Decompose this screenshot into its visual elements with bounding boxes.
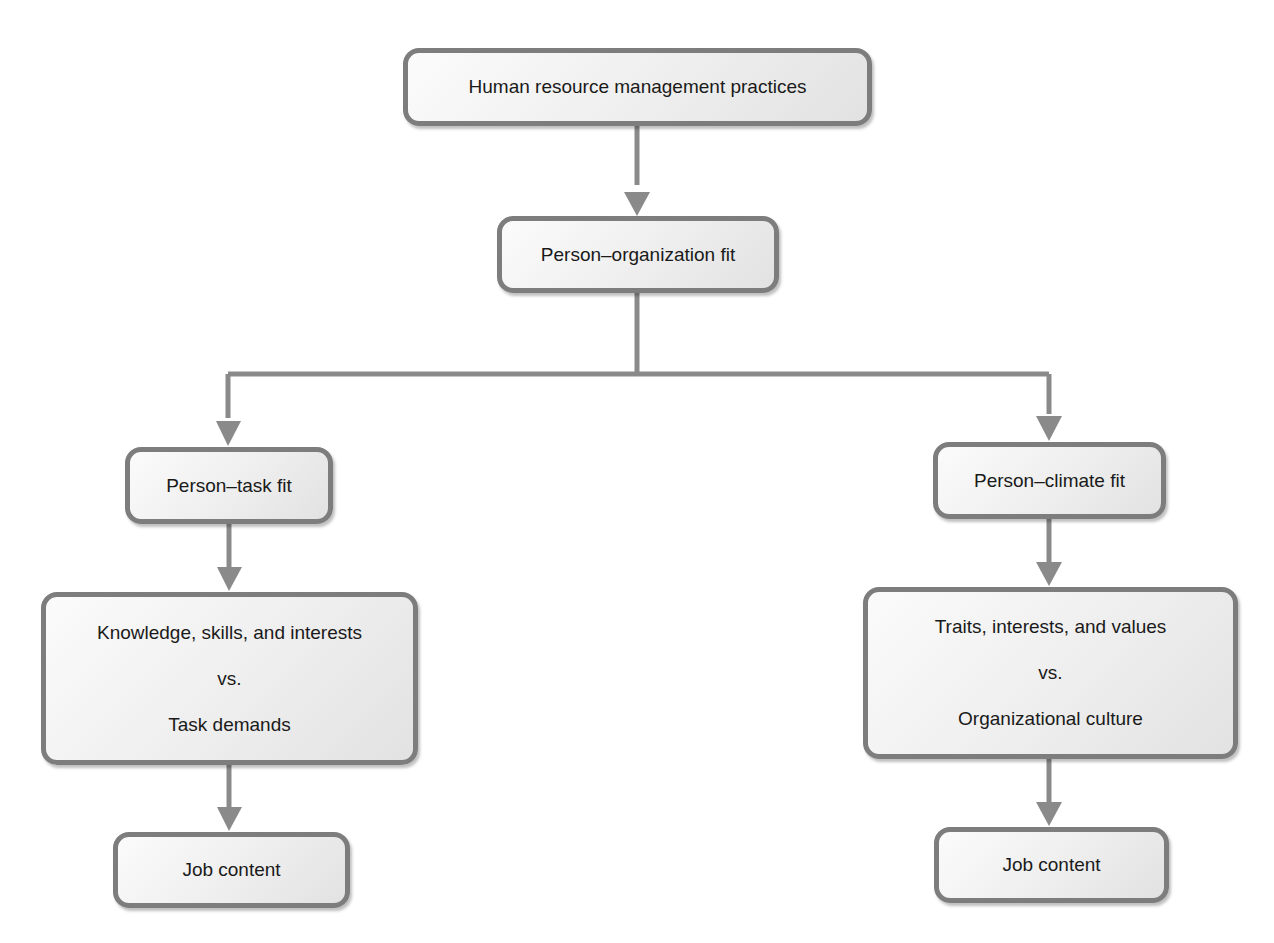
node-person-climate-fit: Person–climate fit	[933, 442, 1166, 519]
node-label: Person–task fit	[166, 475, 292, 497]
arrowhead-icon	[1036, 802, 1062, 826]
node-label: Job content	[182, 859, 280, 881]
node-person-organization-fit: Person–organization fit	[497, 216, 779, 293]
node-line-person-attributes: Knowledge, skills, and interests	[97, 610, 362, 656]
node-line-versus: vs.	[1038, 650, 1062, 696]
arrowhead-icon	[1036, 562, 1062, 586]
arrowhead-icon	[624, 192, 650, 216]
node-person-task-fit: Person–task fit	[125, 447, 333, 524]
arrowhead-icon	[1036, 416, 1062, 441]
node-label: Person–climate fit	[974, 470, 1125, 492]
arrowhead-icon	[217, 567, 242, 591]
node-hrm-practices: Human resource management practices	[403, 48, 872, 126]
node-person-climate-comparison: Traits, interests, and values vs. Organi…	[863, 587, 1238, 759]
node-label: Job content	[1002, 854, 1100, 876]
node-line-task-demands: Task demands	[168, 702, 291, 748]
node-label: Human resource management practices	[469, 76, 807, 98]
node-label: Person–organization fit	[541, 244, 735, 266]
node-line-versus: vs.	[217, 656, 241, 702]
node-line-person-attributes: Traits, interests, and values	[935, 604, 1167, 650]
node-left-job-content: Job content	[113, 832, 350, 908]
node-right-job-content: Job content	[934, 827, 1169, 903]
node-line-organizational-culture: Organizational culture	[958, 696, 1143, 742]
node-person-task-comparison: Knowledge, skills, and interests vs. Tas…	[41, 592, 418, 765]
arrowhead-icon	[217, 807, 242, 831]
arrowhead-icon	[216, 421, 241, 446]
